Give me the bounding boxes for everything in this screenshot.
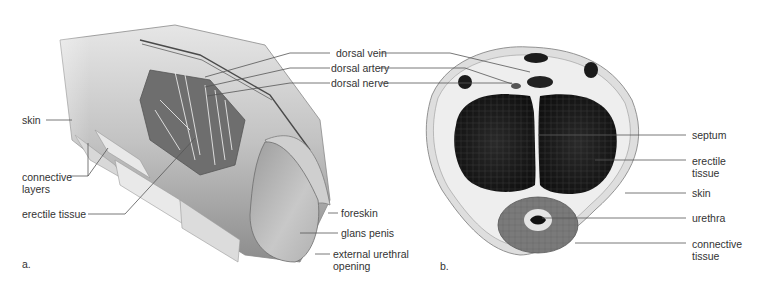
label-skin-a: skin — [22, 114, 41, 126]
panel-b-cross-section: septum erectile tissue skin urethra conn… — [380, 0, 761, 286]
label-foreskin: foreskin — [341, 207, 378, 219]
label-erectile-tissue-a: erectile tissue — [22, 208, 86, 220]
label-connective-layers: connective layers — [22, 171, 82, 195]
label-skin-b: skin — [692, 187, 711, 199]
cutaway-illustration — [0, 0, 380, 286]
label-connective-tissue: connective tissue — [692, 238, 752, 262]
label-urethra: urethra — [692, 212, 725, 224]
panel-letter-a: a. — [22, 258, 31, 270]
label-septum: septum — [692, 129, 726, 141]
panel-letter-b: b. — [440, 260, 449, 272]
label-erectile-tissue-b: erectile tissue — [692, 155, 742, 179]
panel-a-cutaway: dorsal vein dorsal artery dorsal nerve s… — [0, 0, 380, 286]
